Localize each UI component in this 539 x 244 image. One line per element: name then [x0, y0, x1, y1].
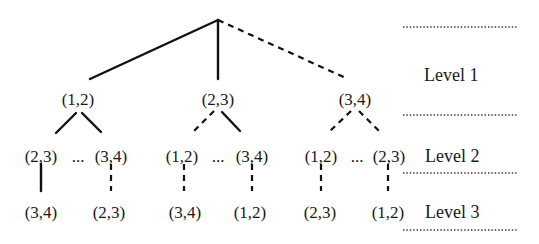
- ellipsis: ...: [351, 147, 364, 166]
- node-level2-34: (3,4): [236, 147, 269, 166]
- tree-diagram: (1,2) (2,3) (3,4) (2,3) ... (3,4) (1,2) …: [0, 0, 539, 244]
- node-level1-34: (3,4): [339, 90, 372, 109]
- level-label-1: Level 1: [424, 65, 478, 85]
- node-level3-34: (3,4): [25, 203, 58, 222]
- node-level3-12: (1,2): [372, 203, 405, 222]
- node-level3-12: (1,2): [234, 203, 267, 222]
- edge-12-to-23: [56, 113, 76, 133]
- node-level3-23: (2,3): [304, 203, 337, 222]
- ellipsis: ...: [72, 147, 85, 166]
- node-level1-23: (2,3): [202, 90, 235, 109]
- level-label-2: Level 2: [425, 146, 479, 166]
- edge-root-to-12: [90, 20, 218, 79]
- node-level1-12: (1,2): [62, 90, 95, 109]
- edge-34-to-23: [359, 111, 379, 131]
- node-level2-23: (2,3): [373, 147, 406, 166]
- edge-root-to-34: [218, 20, 348, 79]
- edge-34-to-12: [330, 111, 351, 131]
- edge-12-to-34: [82, 113, 101, 132]
- node-level3-23: (2,3): [93, 203, 126, 222]
- edge-23-to-12: [193, 111, 214, 132]
- node-level2-12: (1,2): [166, 147, 199, 166]
- ellipsis: ...: [212, 147, 225, 166]
- level-label-3: Level 3: [425, 202, 479, 222]
- node-level2-12: (1,2): [305, 147, 338, 166]
- edge-23-to-34: [222, 112, 240, 131]
- node-level3-34: (3,4): [169, 203, 202, 222]
- node-level2-34: (3,4): [95, 147, 128, 166]
